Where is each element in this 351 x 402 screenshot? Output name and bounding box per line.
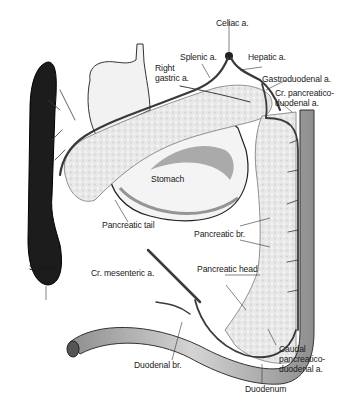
label-caudal-pancreaticoduodenal-artery: Caudal pancreatico- duodenal a. [279, 344, 325, 374]
label-cr-pancreaticoduodenal-artery: Cr. pancreatico- duodenal a. [275, 88, 334, 108]
anatomy-illustration [0, 0, 351, 402]
label-pancreatic-tail: Pancreatic tail [102, 220, 154, 230]
label-gastroduodenal-artery: Gastroduodenal a. [262, 74, 331, 84]
label-hepatic-artery: Hepatic a. [248, 52, 286, 62]
label-stomach: Stomach [151, 174, 184, 184]
label-cr-mesenteric-artery: Cr. mesenteric a. [91, 268, 154, 278]
label-celiac-artery: Celiac a. [216, 18, 249, 28]
label-spleen: Spleen [29, 262, 55, 272]
label-right-gastric-artery: Right gastric a. [155, 63, 189, 83]
label-pancreatic-head: Pancreatic head [197, 264, 258, 274]
label-splenic-artery: Splenic a. [180, 52, 217, 62]
duodenum-opening [67, 341, 79, 357]
label-pancreatic-branch: Pancreatic br. [194, 229, 245, 239]
label-duodenal-branch: Duodenal br. [134, 360, 182, 370]
label-duodenum: Duodenum [245, 384, 286, 394]
spleen-shape [28, 62, 62, 285]
